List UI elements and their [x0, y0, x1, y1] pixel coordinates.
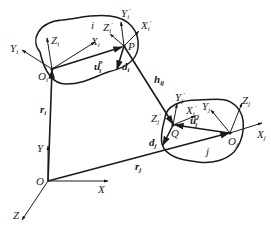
label-h-ij: hij [154, 73, 164, 87]
p-y-prime-axis [121, 22, 124, 46]
label-global-o: O [36, 175, 44, 187]
label-o-j: Oj [228, 135, 238, 149]
origin-o-i-dot [50, 67, 53, 70]
vector-u-i-p [52, 47, 122, 69]
label-q: Q [171, 127, 179, 139]
label-z-i-prime: Zi′ [103, 21, 113, 35]
label-y-i-prime: Yi′ [121, 7, 131, 21]
label-global-y: Y [37, 142, 45, 154]
point-p-dot [122, 44, 125, 47]
label-x-i: Xi [90, 35, 100, 49]
label-y-j-prime: Yj′ [175, 91, 185, 105]
label-x-j: Xj [256, 128, 266, 142]
body-j-z-axis [230, 103, 242, 133]
vector-r-i [48, 70, 52, 181]
vector-h-ij [124, 46, 173, 124]
label-r-j: rj [135, 160, 141, 174]
label-p: P [127, 40, 135, 52]
multibody-frames-diagram: O Y X Z i Oi Zi Xi Yi P uiP di Zi′ Yi′ X… [0, 0, 271, 231]
label-body-j: j [204, 145, 209, 157]
q-y-prime-axis [173, 104, 177, 125]
label-global-x: X [97, 183, 106, 195]
label-z-j-prime: Zj′ [151, 112, 161, 126]
label-d-j: dj [149, 136, 157, 150]
body-i-y-axis [22, 50, 52, 69]
body-j-y-axis [211, 110, 230, 133]
label-z-i: Zi [51, 34, 59, 48]
label-z-j: Zj [242, 94, 250, 108]
label-x-i-prime: Xi′ [140, 19, 152, 33]
global-z-axis [22, 181, 48, 220]
p-z-prime-axis [110, 34, 124, 46]
label-body-i: i [91, 19, 94, 31]
label-d-i: di [122, 60, 130, 74]
label-global-z: Z [13, 209, 20, 221]
label-y-j: Yj [202, 100, 210, 114]
label-y-i: Yi [10, 42, 18, 56]
label-r-i: ri [40, 103, 46, 117]
vector-u-j-q [175, 125, 229, 133]
label-o-i: Oi [38, 70, 48, 84]
label-u-i-p: uiP [94, 59, 103, 75]
